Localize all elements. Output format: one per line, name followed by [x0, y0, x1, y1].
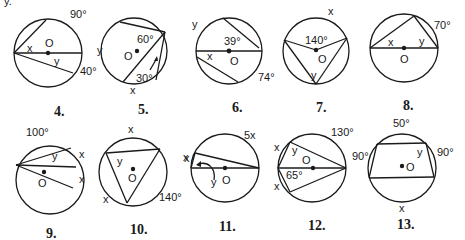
circle-geometry-problems: y. 90° 40° O x y 4. y 60° O 30° x 5.: [0, 0, 465, 240]
problem-number: 10.: [130, 222, 148, 237]
problem-number: 13.: [397, 217, 415, 232]
problem-6-figure: y 39° x O 74° 6.: [192, 18, 275, 115]
angle-label: y: [52, 150, 58, 162]
problem-number: 11.: [219, 219, 236, 234]
angle-label: 39°: [224, 35, 241, 47]
arc-label: x: [103, 193, 109, 205]
arc-label: x: [128, 123, 134, 135]
problem-number: 7.: [316, 100, 327, 115]
problem-number: 6.: [232, 100, 243, 115]
arc-label: 90°: [352, 150, 369, 162]
arc-label: y: [97, 44, 103, 56]
angle-label: y: [311, 69, 317, 81]
arc-label: x: [274, 180, 280, 192]
angle-label: x: [207, 50, 213, 62]
problem-13-figure: 50° 90° y 90° O x 13.: [352, 117, 454, 232]
arc-label: 40°: [80, 65, 97, 77]
header-fragment: y.: [4, 0, 12, 7]
center-label: O: [124, 50, 133, 62]
arc-label: x: [79, 173, 85, 185]
center-label: O: [38, 177, 47, 189]
angle-label: y: [417, 146, 423, 158]
problem-5-figure: y 60° O 30° x 5.: [97, 18, 167, 117]
angle-label: 65°: [286, 169, 303, 181]
arc-label: 140°: [159, 191, 182, 203]
problem-4-figure: 90° 40° O x y 4.: [14, 8, 97, 119]
angle-label: x: [388, 36, 394, 48]
center-label: O: [400, 53, 409, 65]
arc-label: x: [79, 148, 85, 160]
problem-10-figure: x x y O x 140° 10.: [99, 123, 190, 237]
problem-number: 12.: [308, 218, 326, 233]
arc-label: y: [192, 18, 198, 30]
center-label: O: [302, 154, 311, 166]
arc-label: 5x: [244, 129, 256, 141]
arc-label: x: [130, 84, 136, 96]
arc-label: 74°: [258, 71, 275, 83]
problem-number: 8.: [403, 98, 414, 113]
problem-11-figure: 5x x y O 11.: [183, 129, 259, 234]
angle-label: y: [419, 35, 425, 47]
arc-label: x: [328, 5, 334, 17]
problem-number: 9.: [46, 226, 57, 240]
problem-9-figure: 100° y x x O 9.: [16, 126, 85, 240]
central-angle-label: 140°: [305, 34, 328, 46]
arc-label: x: [274, 141, 280, 153]
center-label: O: [45, 37, 54, 49]
angle-label: 60°: [137, 33, 154, 45]
angle-label: y: [211, 176, 217, 188]
arc-label: 90°: [70, 8, 87, 20]
problem-number: 4.: [54, 104, 65, 119]
arc-label: 70°: [434, 19, 451, 31]
angle-label: y: [292, 144, 298, 156]
arc-label: 100°: [26, 126, 49, 138]
center-label: O: [222, 174, 231, 186]
arc-label: x: [183, 151, 189, 163]
problem-8-figure: 70° x y O 8.: [370, 14, 451, 113]
center-label: O: [318, 53, 327, 65]
arc-label: 130°: [331, 126, 354, 138]
angle-label: 30°: [136, 72, 153, 84]
angle-label: x: [27, 42, 33, 54]
problem-7-figure: x 140° O y 7.: [283, 5, 349, 115]
arc-label: x: [399, 202, 405, 214]
angle-label: y: [54, 55, 60, 67]
center-label: O: [406, 161, 415, 173]
center-label: O: [128, 172, 137, 184]
problem-12-figure: 130° x y O 65° x 12.: [274, 126, 354, 233]
angle-label: y: [117, 155, 123, 167]
arc-label: 50°: [393, 117, 410, 129]
center-label: O: [230, 55, 239, 67]
problem-number: 5.: [138, 102, 149, 117]
arc-label: 90°: [437, 146, 454, 158]
